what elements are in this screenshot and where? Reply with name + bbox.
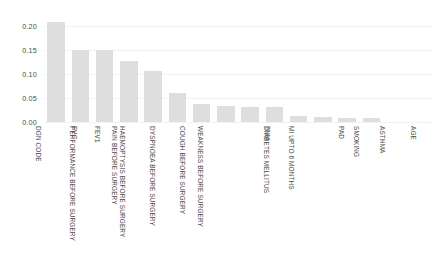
x-tick-label: FEV1	[93, 126, 99, 143]
x-tick-label: DIABETES MELLITUS	[262, 126, 268, 193]
x-tick-slot: DGN CODE	[44, 124, 68, 254]
x-tick-label: MI UPTO 6 MONTHS	[288, 126, 294, 190]
x-axis: DGN CODEFVCFEV1PERFORMANCE BEFORE SURGER…	[44, 124, 432, 254]
bar-slot	[238, 14, 262, 122]
bar[interactable]	[266, 107, 283, 122]
y-tick-label: 0.05	[22, 94, 37, 103]
bar[interactable]	[120, 61, 137, 122]
bar[interactable]	[241, 107, 258, 122]
bar-slot	[165, 14, 189, 122]
bar[interactable]	[72, 50, 89, 122]
x-tick-slot: WEAKNESS BEFORE SURGERY	[238, 124, 262, 254]
bar[interactable]	[338, 118, 355, 122]
bar-slot	[190, 14, 214, 122]
bar-slot	[359, 14, 383, 122]
x-tick-label: PAIN BEFORE SURGERY	[111, 126, 117, 205]
bar-slot	[287, 14, 311, 122]
y-tick-label: 0.20	[22, 22, 37, 31]
x-tick-label: DYSPNOEA BEFORE SURGERY	[148, 126, 154, 226]
x-tick-label: SMOKING	[353, 126, 359, 157]
x-tick-slot: AGE	[408, 124, 432, 254]
bar[interactable]	[193, 104, 210, 122]
plot-area	[44, 14, 432, 122]
x-tick-label: COUGH BEFORE SURGERY	[179, 126, 185, 214]
y-tick-label: 0.10	[22, 70, 37, 79]
gridline	[44, 122, 432, 123]
x-tick-label: HAEMOPTYSIS BEFORE SURGERY	[118, 126, 124, 237]
bar-slot	[335, 14, 359, 122]
bar[interactable]	[144, 71, 161, 122]
bar[interactable]	[96, 50, 113, 122]
x-tick-slot: COUGH BEFORE SURGERY	[214, 124, 238, 254]
bar[interactable]	[363, 118, 380, 122]
bar-slot	[44, 14, 68, 122]
bar-slot	[311, 14, 335, 122]
bar[interactable]	[47, 22, 64, 122]
x-tick-slot: ASTHMA	[384, 124, 408, 254]
bar-series	[44, 14, 432, 122]
x-tick-slot: MI UPTO 6 MONTHS	[311, 124, 335, 254]
bar-slot	[384, 14, 408, 122]
bar-slot	[141, 14, 165, 122]
bar[interactable]	[314, 117, 331, 122]
bar-slot	[68, 14, 92, 122]
x-tick-label: AGE	[410, 126, 416, 140]
bar-slot	[93, 14, 117, 122]
x-tick-label: PERFORMANCE BEFORE SURGERY	[68, 126, 74, 241]
bar-slot	[408, 14, 432, 122]
x-tick-label: PAD	[337, 126, 343, 139]
bar-slot	[262, 14, 286, 122]
x-tick-label: WEAKNESS BEFORE SURGERY	[196, 126, 202, 227]
x-tick-label: ASTHMA	[379, 126, 385, 154]
bar[interactable]	[290, 116, 307, 122]
bar-slot	[117, 14, 141, 122]
y-tick-label: 0.15	[22, 46, 37, 55]
bar[interactable]	[169, 93, 186, 122]
bar-chart: 0.20 0.15 0.10 0.05 0.00 DGN CODEFVCFEV1…	[0, 0, 439, 262]
bar-slot	[214, 14, 238, 122]
bar[interactable]	[217, 106, 234, 122]
x-tick-label: DGN CODE	[35, 126, 41, 162]
